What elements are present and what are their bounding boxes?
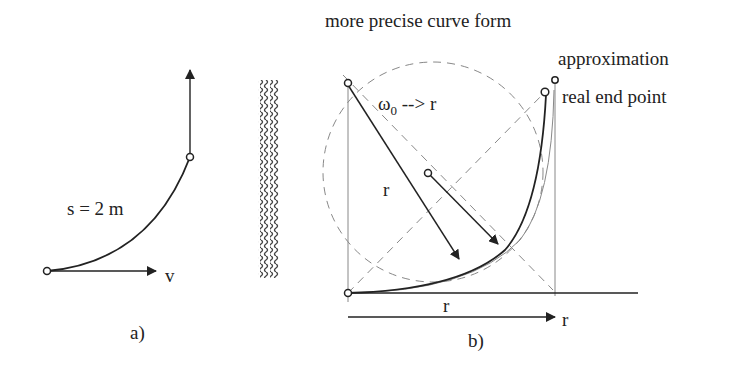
- wavy-separator: [258, 80, 280, 278]
- left-top-node: [345, 80, 352, 87]
- end-node: [187, 154, 194, 161]
- approximation-end-node: [552, 77, 558, 83]
- start-node: [44, 268, 51, 275]
- real-end-node: [541, 88, 549, 96]
- caption-a: a): [130, 322, 145, 344]
- radius-label-left: r: [383, 179, 390, 200]
- real-end-point-label: real end point: [562, 86, 667, 107]
- diagram-canvas: s = 2 m v a) more precise curve form app…: [0, 0, 743, 369]
- approximation-label: approximation: [558, 48, 669, 69]
- origin-node: [345, 290, 352, 297]
- axis-end-label: r: [562, 309, 569, 330]
- velocity-label: v: [165, 265, 175, 286]
- omega-label: ω0 --> r: [378, 93, 437, 118]
- arc-length-label: s = 2 m: [67, 198, 124, 219]
- panel-a: s = 2 m v a): [44, 70, 194, 344]
- center-node: [425, 170, 432, 177]
- approximation-curve: [348, 90, 554, 293]
- radius-label-bottom: r: [443, 295, 450, 316]
- caption-b: b): [468, 330, 484, 352]
- curve-form-title: more precise curve form: [325, 10, 511, 31]
- radius-arrow-center: [428, 173, 498, 244]
- panel-b: more precise curve form approximation re…: [323, 10, 669, 352]
